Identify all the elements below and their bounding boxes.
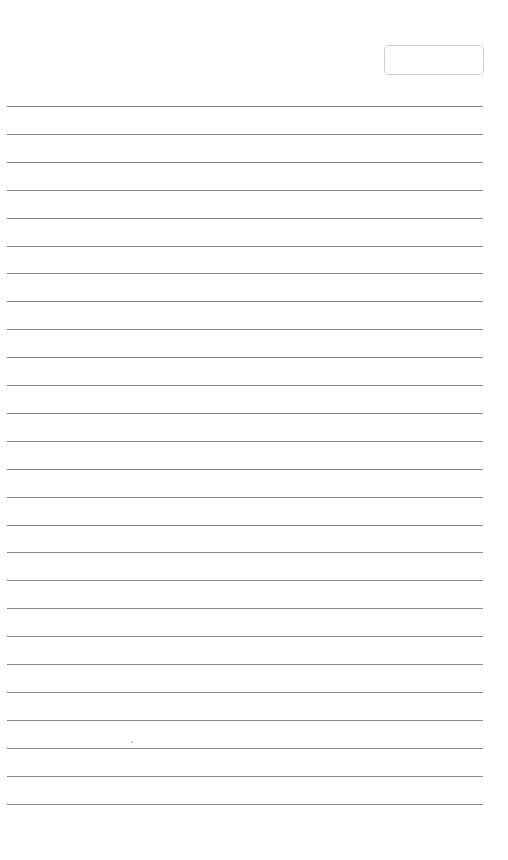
ruled-line	[7, 190, 483, 191]
ruled-line	[7, 552, 483, 553]
ruled-line	[7, 273, 483, 274]
ruled-line	[7, 497, 483, 498]
ruled-line	[7, 441, 483, 442]
ruled-line	[7, 134, 483, 135]
ruled-line	[7, 580, 483, 581]
ruled-line	[7, 608, 483, 609]
ruled-line	[7, 692, 483, 693]
ruled-line	[7, 106, 483, 107]
ruled-line	[7, 301, 483, 302]
ruled-line	[7, 748, 483, 749]
paper-speck	[131, 741, 133, 743]
ruled-line	[7, 329, 483, 330]
ruled-line	[7, 525, 483, 526]
ruled-line	[7, 246, 483, 247]
ruled-line	[7, 162, 483, 163]
ruled-line	[7, 357, 483, 358]
ruled-line	[7, 804, 483, 805]
ruled-line	[7, 385, 483, 386]
ruled-line	[7, 720, 483, 721]
ruled-line	[7, 636, 483, 637]
ruled-line	[7, 469, 483, 470]
date-field[interactable]	[384, 45, 484, 75]
ruled-line	[7, 664, 483, 665]
ruled-line	[7, 218, 483, 219]
ruled-line	[7, 776, 483, 777]
ruled-line	[7, 413, 483, 414]
